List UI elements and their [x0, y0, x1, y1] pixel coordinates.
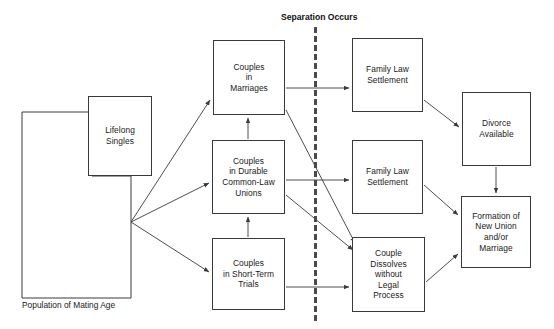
separation-divider — [314, 27, 317, 321]
edge-commonlaw-to-dissolves — [286, 195, 353, 250]
flow-diagram: Separation Occurs — [0, 0, 554, 329]
node-family-law-settlement-mid: Family Law Settlement — [352, 140, 423, 214]
node-couple-dissolves-label: Couple Dissolves without Legal Process — [370, 248, 406, 301]
node-couple-dissolves: Couple Dissolves without Legal Process — [352, 237, 425, 312]
edge-dissolves-to-formation — [426, 254, 458, 282]
node-divorce-available-label: Divorce Available — [479, 118, 513, 139]
node-couples-in-marriages: Couples in Marriages — [213, 40, 285, 115]
node-divorce-available: Divorce Available — [462, 92, 531, 166]
node-family-law-settlement-mid-label: Family Law Settlement — [366, 166, 409, 187]
node-family-law-settlement-top: Family Law Settlement — [352, 38, 423, 112]
node-couples-short-term-label: Couples in Short-Term Trials — [223, 258, 274, 290]
node-couples-short-term: Couples in Short-Term Trials — [212, 238, 285, 310]
node-couples-in-marriages-label: Couples in Marriages — [230, 62, 268, 94]
edge-settlement-mid-to-formation — [424, 185, 458, 215]
separation-occurs-label: Separation Occurs — [281, 12, 357, 22]
edge-settlement-top-to-divorce — [424, 100, 459, 127]
node-lifelong-singles-label: Lifelong Singles — [105, 125, 135, 146]
node-family-law-settlement-top-label: Family Law Settlement — [366, 64, 409, 85]
edge-population-to-commonlaw — [131, 183, 209, 222]
node-couples-common-law: Couples in Durable Common-Law Unions — [212, 140, 285, 214]
node-lifelong-singles: Lifelong Singles — [88, 96, 152, 176]
node-formation-new-union-label: Formation of New Union and/or Marriage — [472, 211, 520, 253]
edge-marriages-to-dissolves — [286, 110, 355, 243]
node-formation-new-union: Formation of New Union and/or Marriage — [461, 196, 531, 268]
node-population-label: Population of Mating Age — [22, 300, 115, 310]
edge-population-to-shortterm — [131, 222, 209, 272]
node-couples-common-law-label: Couples in Durable Common-Law Unions — [222, 156, 275, 198]
